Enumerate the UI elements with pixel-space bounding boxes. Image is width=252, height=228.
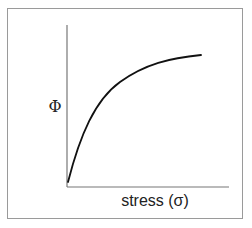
x-axis-label: stress (σ) <box>110 192 200 210</box>
y-axis-label: Φ <box>45 97 65 116</box>
saturation-curve <box>68 55 201 182</box>
